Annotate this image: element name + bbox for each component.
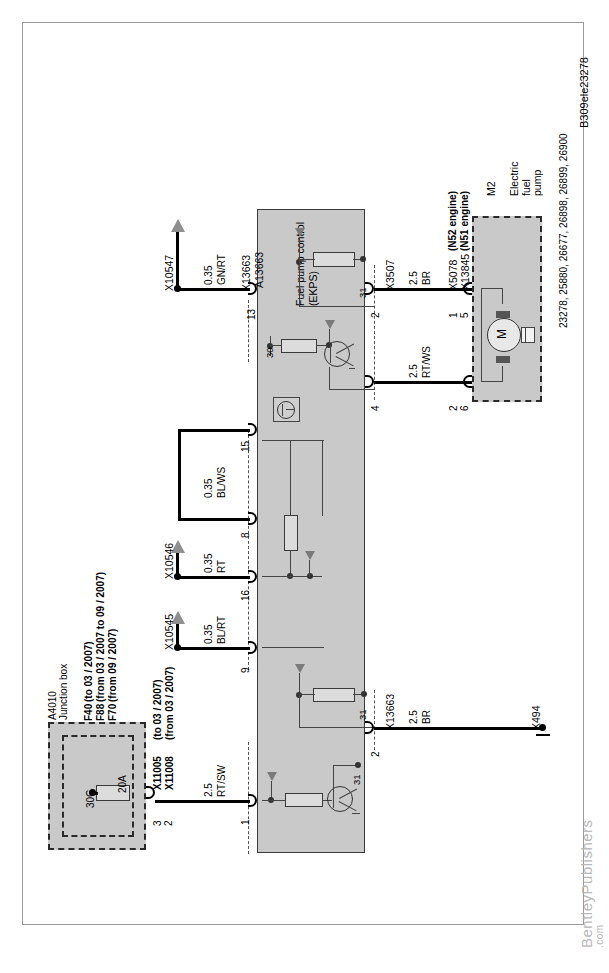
- wire16-gauge: 0.35: [203, 554, 214, 573]
- internal-wire-bot-h1: [299, 694, 315, 695]
- pump-pin6-number: 6: [459, 405, 470, 411]
- pump-motor-symbol-letter: M: [495, 329, 509, 339]
- wire16-color: RT: [216, 560, 227, 573]
- wire2bot-gauge: 2.5: [408, 710, 419, 724]
- pump-internal-wire-bottom: [481, 381, 503, 382]
- internal-wire-to-pin2-top: [299, 306, 375, 307]
- pump-pin2-number: 2: [448, 405, 459, 411]
- wire4-color: RT/WS: [421, 346, 432, 378]
- pin1-number: 1: [240, 819, 251, 825]
- x5078-label: X5078: [447, 260, 459, 290]
- x494-ground-bar: [536, 734, 550, 736]
- fuse-f70-id: F70: [107, 704, 118, 721]
- internal-wire-arrow-v: [309, 560, 310, 576]
- internal-transistor-bot-out: [352, 813, 360, 814]
- pin2-top-number: 2: [370, 312, 381, 318]
- internal-node-arrow-top: [295, 228, 305, 237]
- internal-resistor-mid: [281, 339, 317, 353]
- wire13-color: GN/RT: [216, 254, 227, 285]
- internal-transistor-mid-base: [330, 345, 331, 363]
- internal-resistor-vertical: [284, 515, 298, 551]
- internal-label-30: 30: [264, 347, 275, 358]
- internal-node-arrow-bottom: [295, 664, 305, 673]
- junction-box-ref: A4010: [47, 691, 58, 720]
- wire15-color: BL/WS: [216, 467, 227, 498]
- connector-boundary-left-mid: [248, 430, 249, 670]
- x5078-engine-note: (N52 engine): [447, 191, 458, 251]
- pump-motor-lead-bottom: [502, 366, 503, 382]
- fuse-f88-id: F88: [95, 704, 106, 721]
- pump-motor-terminal-bottom: [496, 356, 510, 363]
- pin13-number: 13: [246, 309, 257, 320]
- pump-motor-terminal-top: [496, 311, 510, 318]
- wire-pin9: [177, 647, 250, 650]
- wire2top-gauge: 2.5: [408, 271, 419, 285]
- wire-pin1: [155, 800, 250, 803]
- wire13-gauge: 0.35: [203, 266, 214, 285]
- x10547-stem-wire: [176, 232, 179, 288]
- pump-pin5-number: 5: [459, 312, 470, 318]
- pin8-number: 8: [240, 532, 251, 538]
- pin15-number: 15: [240, 441, 251, 452]
- internal-transistor-bot-base: [333, 790, 334, 808]
- watermark-domain: .com: [594, 924, 605, 948]
- x494-label: X494: [530, 705, 542, 730]
- wire-pin2-bottom: [374, 727, 543, 730]
- fuse-f70-note: (from 09 / 2007): [107, 629, 118, 702]
- junction-box-name: Junction box: [58, 664, 69, 720]
- wire9-color: BL/RT: [216, 616, 227, 644]
- wire9-gauge: 0.35: [203, 625, 214, 644]
- internal-wire-pin9-h: [262, 647, 324, 648]
- pin16-number: 16: [240, 590, 251, 601]
- wire1-color: RT/SW: [216, 765, 227, 797]
- fuse-pin3-number: 3: [152, 820, 163, 826]
- internal-wire-bot-transistor-up: [333, 765, 334, 790]
- electric-fuel-pump-module: [472, 216, 542, 402]
- pump-internal-wire-left: [481, 288, 482, 382]
- fuse-pin2-number: 2: [163, 820, 174, 826]
- x11005-label: X11005: [152, 756, 163, 790]
- x11005-note: (to 03 / 2007): [152, 679, 163, 740]
- internal-wire-top-h1: [299, 259, 315, 260]
- fuse-f40-note: (to 03 / 2007): [83, 641, 94, 702]
- internal-node-arrow-pin1: [267, 772, 277, 781]
- diagram-id-label: B309ele23278: [578, 57, 590, 128]
- internal-wire-to-pin4: [329, 389, 375, 390]
- wire-pin4: [374, 381, 472, 384]
- internal-wire-pin16-h: [262, 576, 322, 577]
- pump-internal-wire-top: [481, 288, 503, 289]
- wire4-gauge: 2.5: [408, 364, 419, 378]
- internal-label-31-bottom: 31: [351, 774, 362, 785]
- x10547-splice-triangle-icon: [171, 219, 185, 232]
- wire15-gauge: 0.35: [203, 479, 214, 498]
- wire-pin8-bottom: [178, 518, 250, 521]
- internal-wire-30-h1: [270, 345, 282, 346]
- internal-node-arrow-mid: [325, 320, 335, 329]
- internal-node-arrow-pin16: [305, 551, 315, 560]
- internal-wire-pin1-arrow-v: [271, 781, 272, 798]
- terminal-30g-label: 30G: [85, 789, 96, 808]
- fuse-rating-label: 20A: [117, 775, 128, 793]
- internal-terminal-dot-bottom: [361, 691, 367, 697]
- fuse-f40-id: F40: [83, 704, 94, 721]
- internal-resistor-pin1: [285, 793, 323, 807]
- x10546-label: X10546: [163, 543, 175, 579]
- pump-suppressor-plate: [525, 327, 526, 343]
- internal-transistor-icon-base: [282, 404, 283, 416]
- wire-pin15-left: [178, 429, 181, 520]
- pump-motor-lead-top: [502, 288, 503, 304]
- pump-part-numbers: 23278, 25880, 26677, 26898, 26899, 26900: [558, 133, 569, 328]
- connector-boundary-right-top: [374, 265, 375, 400]
- pump-pin1-number: 1: [448, 312, 459, 318]
- wire-pin16: [177, 576, 250, 579]
- pump-suppressor-icon: [521, 327, 535, 343]
- fuse-f88-note: (from 03 / 2007 to 09 / 2007): [95, 572, 106, 702]
- internal-resistor-bottom: [313, 688, 355, 702]
- x10547-label: X10547: [163, 255, 175, 291]
- pump-name-1: Electric: [508, 162, 520, 196]
- x13663-top-label: X13663: [240, 255, 252, 291]
- watermark-brand: BentleyPublishers: [578, 819, 595, 948]
- x13845-engine-note: (N51 engine): [459, 191, 470, 251]
- internal-transistor-mid-out: [349, 368, 355, 369]
- wire2top-color: BR: [421, 271, 432, 285]
